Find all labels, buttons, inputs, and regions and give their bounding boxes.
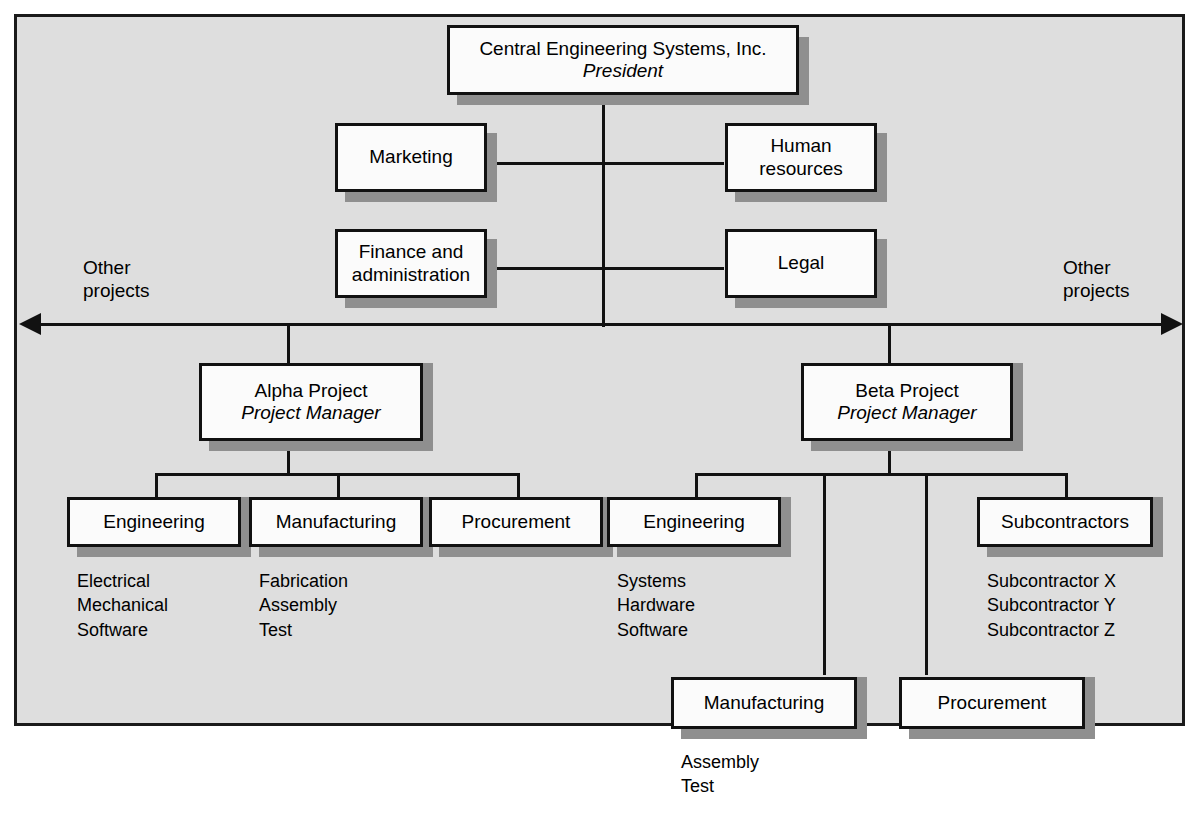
node-president-name: Central Engineering Systems, Inc. bbox=[479, 38, 766, 60]
left-arrowhead bbox=[19, 313, 41, 335]
node-beta-project-name: Beta Project bbox=[855, 380, 959, 402]
shadow-legal-side bbox=[877, 239, 887, 308]
sublist-alpha-manufacturing: Fabrication Assembly Test bbox=[259, 569, 348, 642]
node-alpha-manufacturing[interactable]: Manufacturing bbox=[249, 497, 423, 547]
chart-frame: Central Engineering Systems, Inc. Presid… bbox=[14, 14, 1185, 726]
shadow-beta-subcontractors bbox=[987, 547, 1163, 557]
connector-beta-down bbox=[888, 449, 891, 476]
project-axis-line bbox=[39, 323, 1163, 326]
label-other-projects-left: Other projects bbox=[83, 257, 150, 303]
connector-marketing bbox=[487, 162, 605, 165]
shadow-alpha-side bbox=[423, 363, 433, 451]
label-other-projects-left-line1: Other bbox=[83, 257, 150, 280]
node-marketing-label: Marketing bbox=[369, 146, 452, 168]
shadow-alpha bbox=[209, 441, 433, 451]
sublist-alpha-engineering: Electrical Mechanical Software bbox=[77, 569, 168, 642]
shadow-beta bbox=[811, 441, 1023, 451]
label-other-projects-right: Other projects bbox=[1063, 257, 1130, 303]
shadow-alpha-manufacturing bbox=[259, 547, 433, 557]
node-beta-manufacturing-label: Manufacturing bbox=[704, 692, 824, 714]
shadow-finance bbox=[345, 298, 497, 308]
label-other-projects-right-line1: Other bbox=[1063, 257, 1130, 280]
shadow-hr-side bbox=[877, 133, 887, 202]
node-beta-procurement-label: Procurement bbox=[938, 692, 1047, 714]
node-alpha-procurement-label: Procurement bbox=[462, 511, 571, 533]
shadow-beta-engineering-side bbox=[781, 497, 791, 557]
connector-president-spine bbox=[602, 93, 605, 327]
node-president-role: President bbox=[583, 60, 663, 82]
shadow-president bbox=[457, 95, 809, 105]
node-human-resources-label-line1: Human bbox=[770, 135, 831, 157]
sublist-beta-manufacturing: Assembly Test bbox=[681, 750, 759, 799]
connector-alpha-stem bbox=[287, 323, 290, 367]
node-alpha-project[interactable]: Alpha Project Project Manager bbox=[199, 363, 423, 441]
shadow-alpha-procurement bbox=[439, 547, 613, 557]
node-beta-subcontractors-label: Subcontractors bbox=[1001, 511, 1129, 533]
node-beta-engineering[interactable]: Engineering bbox=[607, 497, 781, 547]
node-beta-project-role: Project Manager bbox=[837, 402, 976, 424]
node-finance-label-line2: administration bbox=[352, 264, 470, 286]
node-alpha-manufacturing-label: Manufacturing bbox=[276, 511, 396, 533]
shadow-alpha-engineering bbox=[77, 547, 251, 557]
node-finance-label-line1: Finance and bbox=[359, 241, 464, 263]
node-alpha-project-role: Project Manager bbox=[241, 402, 380, 424]
connector-beta-stem bbox=[888, 323, 891, 367]
shadow-finance-side bbox=[487, 239, 497, 308]
node-beta-procurement[interactable]: Procurement bbox=[899, 677, 1085, 729]
label-other-projects-left-line2: projects bbox=[83, 280, 150, 303]
connector-beta-procurement-drop bbox=[925, 473, 928, 675]
node-alpha-procurement[interactable]: Procurement bbox=[429, 497, 603, 547]
shadow-beta-side bbox=[1013, 363, 1023, 451]
shadow-beta-manufacturing-side bbox=[857, 677, 867, 739]
right-arrowhead bbox=[1161, 313, 1183, 335]
node-finance-administration[interactable]: Finance and administration bbox=[335, 229, 487, 298]
node-alpha-engineering-label: Engineering bbox=[103, 511, 204, 533]
connector-human-resources bbox=[602, 162, 724, 165]
node-marketing[interactable]: Marketing bbox=[335, 123, 487, 192]
connector-legal bbox=[602, 267, 724, 270]
connector-alpha-down bbox=[287, 449, 290, 476]
org-chart-page: Central Engineering Systems, Inc. Presid… bbox=[0, 0, 1199, 818]
shadow-marketing bbox=[345, 192, 497, 202]
shadow-legal bbox=[735, 298, 887, 308]
shadow-marketing-side bbox=[487, 133, 497, 202]
node-legal-label: Legal bbox=[778, 252, 825, 274]
node-legal[interactable]: Legal bbox=[725, 229, 877, 298]
sublist-beta-subcontractors: Subcontractor X Subcontractor Y Subcontr… bbox=[987, 569, 1116, 642]
shadow-president-side bbox=[799, 37, 809, 105]
node-beta-manufacturing[interactable]: Manufacturing bbox=[671, 677, 857, 729]
shadow-beta-procurement-side bbox=[1085, 677, 1095, 739]
shadow-hr bbox=[735, 192, 887, 202]
label-other-projects-right-line2: projects bbox=[1063, 280, 1130, 303]
shadow-beta-engineering bbox=[617, 547, 791, 557]
node-human-resources[interactable]: Human resources bbox=[725, 123, 877, 192]
shadow-beta-subcontractors-side bbox=[1153, 497, 1163, 557]
sublist-beta-engineering: Systems Hardware Software bbox=[617, 569, 695, 642]
connector-beta-bus bbox=[695, 473, 1068, 476]
node-president[interactable]: Central Engineering Systems, Inc. Presid… bbox=[447, 25, 799, 95]
node-beta-engineering-label: Engineering bbox=[643, 511, 744, 533]
node-beta-subcontractors[interactable]: Subcontractors bbox=[977, 497, 1153, 547]
shadow-beta-manufacturing bbox=[681, 729, 867, 739]
shadow-beta-procurement bbox=[909, 729, 1095, 739]
node-alpha-engineering[interactable]: Engineering bbox=[67, 497, 241, 547]
node-alpha-project-name: Alpha Project bbox=[254, 380, 367, 402]
node-human-resources-label-line2: resources bbox=[759, 158, 842, 180]
node-beta-project[interactable]: Beta Project Project Manager bbox=[801, 363, 1013, 441]
connector-beta-manufacturing-drop bbox=[823, 473, 826, 675]
connector-finance bbox=[487, 267, 605, 270]
